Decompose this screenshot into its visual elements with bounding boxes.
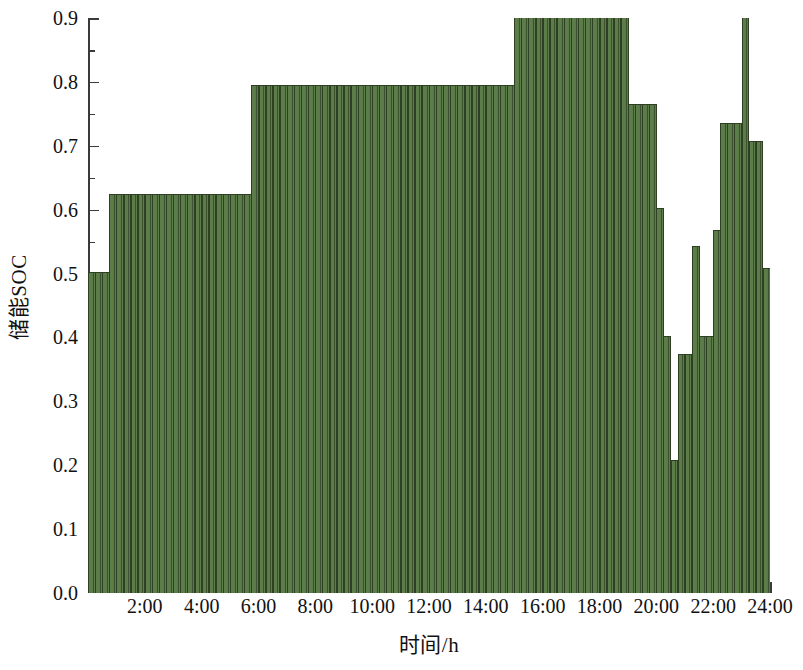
y-axis-tick-label: 0.1: [53, 519, 78, 539]
y-axis-tick-label: 0.6: [53, 200, 78, 220]
x-axis-tick-label: 18:00: [577, 596, 623, 616]
y-axis-tick-label: 0.7: [53, 136, 78, 156]
y-axis-tick-labels: 0.00.10.20.30.40.50.60.70.80.9: [32, 0, 84, 593]
plot-area: [88, 18, 770, 593]
x-axis-tick-label: 20:00: [634, 596, 680, 616]
y-axis-tick-label: 0.3: [53, 391, 78, 411]
x-tick-major: [770, 582, 772, 593]
x-axis-tick-label: 6:00: [241, 596, 277, 616]
x-axis-tick-label: 24:00: [747, 596, 793, 616]
x-axis-tick-label: 8:00: [298, 596, 334, 616]
x-axis-title: 时间/h: [88, 628, 770, 658]
x-axis-tick-label: 16:00: [520, 596, 566, 616]
x-axis-tick-label: 22:00: [690, 596, 736, 616]
y-axis-tick-label: 0.8: [53, 72, 78, 92]
soc-bar-chart: 储能SOC 0.00.10.20.30.40.50.60.70.80.9 2:0…: [0, 0, 803, 670]
x-axis-tick-label: 10:00: [349, 596, 395, 616]
y-axis-title-text: 储能SOC: [2, 254, 32, 339]
y-axis-tick-label: 0.4: [53, 327, 78, 347]
bar: [763, 268, 770, 593]
x-axis-tick-label: 14:00: [463, 596, 509, 616]
x-axis-tick-label: 12:00: [406, 596, 452, 616]
x-axis-tick-labels: 2:004:006:008:0010:0012:0014:0016:0018:0…: [88, 596, 770, 626]
y-axis-tick-label: 0.5: [53, 264, 78, 284]
y-axis-tick-label: 0.0: [53, 583, 78, 603]
y-axis-tick-label: 0.9: [53, 8, 78, 28]
bar-series: [88, 18, 770, 593]
y-axis-tick-label: 0.2: [53, 455, 78, 475]
x-axis-tick-label: 2:00: [127, 596, 163, 616]
x-axis-tick-label: 4:00: [184, 596, 220, 616]
y-axis-title: 储能SOC: [0, 0, 34, 593]
